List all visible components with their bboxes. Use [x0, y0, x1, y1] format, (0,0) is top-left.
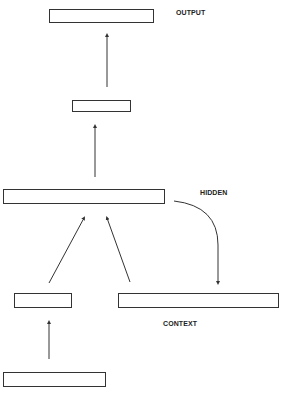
output-layer-box: [49, 9, 154, 23]
arrow-hidden-copy-to-context: [174, 201, 218, 283]
arrow-context-to-hidden: [107, 218, 130, 282]
context-layer-box: [118, 293, 279, 308]
arrow-input-to-hidden: [49, 218, 84, 283]
input-projection-box: [14, 293, 72, 308]
input-layer-box: [3, 372, 106, 387]
hidden-layer-box: [3, 189, 165, 204]
output-label: OUTPUT: [176, 9, 205, 16]
output-projection-box: [72, 100, 131, 112]
hidden-label: HIDDEN: [200, 189, 227, 196]
context-label: CONTEXT: [163, 320, 197, 327]
